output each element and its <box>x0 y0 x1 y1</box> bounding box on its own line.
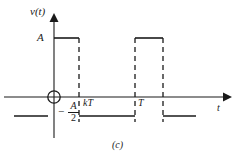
y-axis-label: v(t) <box>30 6 45 17</box>
amplitude-high-label: A <box>37 32 44 43</box>
amplitude-low-sign: − <box>58 106 64 117</box>
waveform-solid-segments <box>14 38 196 116</box>
amplitude-low-fraction: A 2 <box>67 101 80 123</box>
x-axis <box>4 93 232 102</box>
tick-label-kT: kT <box>83 98 93 108</box>
waveform-dashed-transitions <box>79 38 163 122</box>
fraction-numerator: A <box>67 101 80 112</box>
waveform-plot <box>0 0 235 162</box>
x-axis-label: t <box>217 103 220 113</box>
y-axis-arrow <box>50 13 59 22</box>
x-axis-arrow <box>223 93 232 102</box>
figure-caption: (c) <box>0 139 235 150</box>
tick-label-T: T <box>138 98 144 108</box>
figure-container: v(t) A kT T t − A 2 (c) <box>0 0 235 162</box>
y-axis <box>50 13 59 138</box>
fraction-denominator: 2 <box>67 113 80 124</box>
